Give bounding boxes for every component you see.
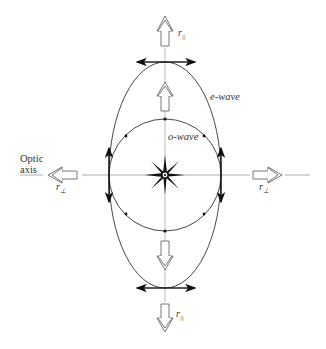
o-wave-label: o-wave bbox=[168, 132, 198, 142]
r-perp-right-label: r⊥ bbox=[259, 182, 269, 196]
optic-axis-label: Optic axis bbox=[20, 153, 43, 175]
e-wave-label: e-wave bbox=[210, 92, 240, 102]
r-parallel-bottom-label: r|| bbox=[176, 309, 184, 323]
r-parallel-top-label: r|| bbox=[178, 28, 186, 42]
center-star-icon bbox=[145, 155, 185, 195]
r-perp-left-label: r⊥ bbox=[56, 182, 66, 196]
birefringence-diagram bbox=[0, 0, 326, 349]
